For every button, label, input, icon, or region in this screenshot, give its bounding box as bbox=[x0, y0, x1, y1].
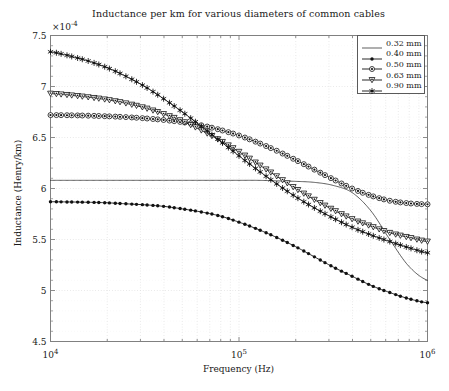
legend-item-0-32-mm: 0.32 mm bbox=[360, 38, 422, 49]
legend-item-0-40-mm: 0.40 mm bbox=[360, 49, 422, 60]
legend-label: 0.32 mm bbox=[384, 39, 422, 48]
legend-marker-star-icon bbox=[360, 81, 384, 91]
legend-marker-circle-dot-icon bbox=[360, 59, 384, 69]
legend-label: 0.40 mm bbox=[384, 49, 422, 58]
chart-legend: 0.32 mm0.40 mm0.50 mm0.63 mm0.90 mm bbox=[357, 35, 425, 94]
series-0-40-mm bbox=[49, 200, 429, 304]
legend-marker-none-icon bbox=[360, 38, 384, 48]
legend-item-0-63-mm: 0.63 mm bbox=[360, 70, 422, 81]
chart-figure: Inductance per km for various diameters … bbox=[0, 0, 449, 391]
legend-marker-triangle-down-icon bbox=[360, 70, 384, 80]
legend-label: 0.90 mm bbox=[384, 81, 422, 90]
legend-marker-dot-icon bbox=[360, 49, 384, 59]
legend-item-0-50-mm: 0.50 mm bbox=[360, 59, 422, 70]
legend-label: 0.50 mm bbox=[384, 60, 422, 69]
legend-label: 0.63 mm bbox=[384, 71, 422, 80]
legend-item-0-90-mm: 0.90 mm bbox=[360, 80, 422, 91]
